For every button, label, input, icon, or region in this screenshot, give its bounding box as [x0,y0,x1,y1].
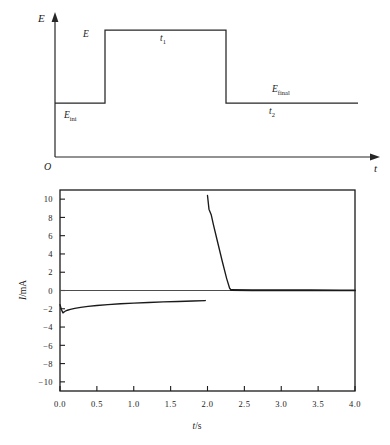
figure-root: E t O E Eini t1 [0,0,390,445]
current-x-tick-label: 1.0 [128,399,140,409]
current-y-tick-label: 0 [48,286,53,296]
current-x-tick-label: 1.5 [165,399,177,409]
current-x-tick-label: 3.5 [312,399,324,409]
current-y-tick-label: 8 [48,213,53,223]
annotation-final-potential-sub: final [278,89,290,96]
potential-x-axis [55,154,380,161]
current-y-tick-label: −10 [39,377,54,387]
svg-text:E: E [82,29,89,39]
potential-step-trace [55,30,358,103]
svg-text:Eini: Eini [63,110,77,122]
annotation-initial-potential-sub: ini [70,115,77,122]
svg-text:t2: t2 [269,106,275,118]
annotation-pulse-duration: t1 [160,33,166,45]
current-series-anodic-spike [208,195,232,290]
annotation-step-amplitude-text: E [82,29,89,39]
current-x-tick-label: 2.5 [238,399,250,409]
annotation-step-amplitude: E [82,29,89,39]
current-y-axis-title: I/mA [18,280,28,301]
current-y-tick-label: −4 [43,322,53,332]
potential-y-axis [52,12,59,157]
annotation-relaxation-duration-sub: 2 [272,111,275,118]
current-y-tick-label: −8 [43,359,53,369]
annotation-relaxation-duration: t2 [269,106,275,118]
current-y-tick-label: 4 [48,249,53,259]
current-x-tick-label: 0.0 [54,399,66,409]
current-response-svg: 1086420−2−4−6−8−10 0.00.51.01.52.02.53.0… [0,180,390,445]
current-x-axis-title: t/s [193,421,202,431]
current-x-tick-label: 4.0 [349,399,361,409]
current-y-tick-label: −6 [43,341,53,351]
potential-axis-label-E: E [37,12,45,24]
annotation-initial-potential: Eini [63,110,77,122]
potential-waveform-panel: E t O E Eini t1 [0,0,390,180]
potential-waveform-svg: E t O E Eini t1 [0,0,390,180]
current-x-tick-label: 0.5 [91,399,103,409]
svg-text:Efinal: Efinal [271,84,290,96]
current-x-tick-label: 2.0 [202,399,214,409]
current-y-tick-label: 6 [48,231,53,241]
current-x-tick-label: 3.0 [275,399,287,409]
current-response-panel: 1086420−2−4−6−8−10 0.00.51.01.52.02.53.0… [0,180,390,445]
potential-origin-label: O [44,161,51,172]
current-series-cathodic-branch [60,301,205,313]
svg-text:t1: t1 [160,33,166,45]
annotation-final-potential: Efinal [271,84,290,96]
current-series-group [60,195,355,312]
potential-axis-label-t: t [374,162,378,174]
current-y-tick-label: −2 [43,304,53,314]
annotation-pulse-duration-sub: 1 [163,38,166,45]
current-y-tick-label: 2 [48,267,53,277]
current-y-tick-label: 10 [44,194,53,204]
current-x-tick-group: 0.00.51.01.52.02.53.03.54.0 [54,386,361,409]
